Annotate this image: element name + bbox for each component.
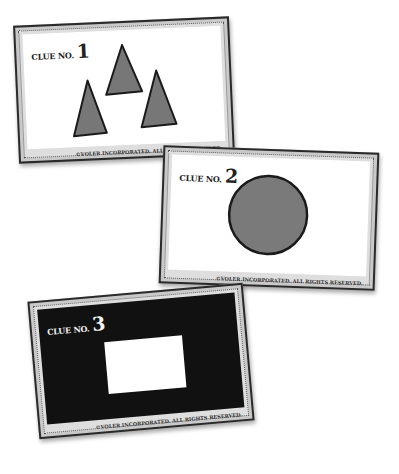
clue-card-3: CLUE NO. 3 ©VOLER INCORPORATED. ALL RIGH… xyxy=(27,283,254,439)
rectangle-shape xyxy=(37,292,249,428)
triangle-left xyxy=(72,80,107,136)
clue-label: CLUE NO. 1 xyxy=(31,41,90,63)
card-face: CLUE NO. 1 xyxy=(22,26,225,150)
clue-card-2: CLUE NO. 2 ©VOLER INCORPORATED. ALL RIGH… xyxy=(159,145,380,290)
clue-label-text: CLUE NO. xyxy=(31,50,74,62)
clue-label: CLUE NO. 2 xyxy=(179,165,238,186)
triangle-right xyxy=(139,70,176,127)
circle xyxy=(228,175,309,256)
clue-label: CLUE NO. 3 xyxy=(46,314,106,338)
clue-number: 3 xyxy=(91,314,106,334)
card-face: CLUE NO. 2 xyxy=(168,155,370,277)
triangle-top xyxy=(104,44,142,95)
white-rectangle xyxy=(104,335,186,394)
clue-number: 1 xyxy=(76,41,90,61)
clue-number: 2 xyxy=(225,166,239,185)
card-face: CLUE NO. 3 xyxy=(37,293,244,425)
clue-card-1: CLUE NO. 1 ©VOLER INCORPORATED. ALL RIGH… xyxy=(13,16,235,163)
clue-label-text: CLUE NO. xyxy=(179,173,222,184)
